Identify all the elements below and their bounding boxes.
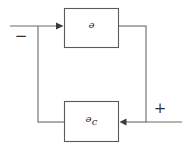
block-diagram-canvas: ᵊ ᵊc − + — [0, 0, 182, 149]
plant-label-text: ᵊ — [88, 20, 94, 36]
arrowhead-plant-input — [56, 23, 64, 30]
plant-block-label: ᵊ — [64, 8, 119, 48]
minus-sign-label: − — [14, 29, 28, 44]
plus-sign-label: + — [153, 101, 167, 116]
arrowhead-controller-input — [120, 119, 127, 126]
controller-block-label: ᵊc — [64, 101, 119, 142]
controller-label-subscript: c — [92, 117, 98, 127]
